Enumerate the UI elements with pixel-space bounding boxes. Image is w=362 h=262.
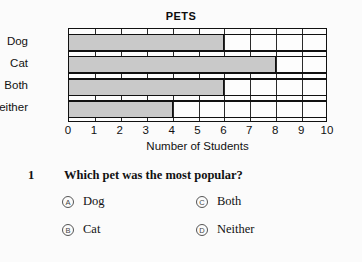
question-number: 1 — [28, 168, 34, 183]
option-label-a: Dog — [83, 194, 105, 209]
answer-option-c[interactable]: CBoth — [196, 194, 241, 209]
chart-title: PETS — [0, 10, 362, 22]
answer-option-b[interactable]: BCat — [62, 222, 100, 237]
grid-line-horizontal — [69, 78, 326, 80]
x-tick-4: 4 — [168, 124, 174, 136]
x-tick-9: 9 — [298, 124, 304, 136]
grid-line-horizontal — [69, 56, 326, 58]
option-bubble-b-icon[interactable]: B — [62, 224, 74, 236]
x-tick-2: 2 — [117, 124, 123, 136]
x-tick-3: 3 — [142, 124, 148, 136]
option-label-d: Neither — [217, 222, 254, 237]
option-label-c: Both — [217, 194, 241, 209]
option-bubble-d-icon[interactable]: D — [196, 224, 208, 236]
bar-neither — [69, 101, 173, 118]
option-bubble-a-icon[interactable]: A — [62, 196, 74, 208]
x-tick-8: 8 — [272, 124, 278, 136]
bar-chart-plot-area — [68, 28, 327, 122]
category-label-neither: Neither — [0, 101, 28, 113]
x-tick-1: 1 — [91, 124, 97, 136]
x-tick-0: 0 — [65, 124, 71, 136]
grid-line-horizontal — [69, 72, 326, 74]
grid-line-horizontal — [69, 95, 326, 97]
x-tick-7: 7 — [246, 124, 252, 136]
bar-row — [69, 35, 326, 52]
category-label-cat: Cat — [10, 57, 28, 69]
grid-line-horizontal — [69, 34, 326, 36]
bar-row — [69, 79, 326, 96]
bar-cat — [69, 57, 276, 74]
bar-both — [69, 79, 224, 96]
option-label-b: Cat — [83, 222, 100, 237]
x-tick-5: 5 — [194, 124, 200, 136]
x-tick-6: 6 — [220, 124, 226, 136]
bar-row — [69, 101, 326, 118]
category-label-dog: Dog — [7, 35, 28, 47]
question-text: Which pet was the most popular? — [64, 168, 243, 183]
option-bubble-c-icon[interactable]: C — [196, 196, 208, 208]
bar-dog — [69, 35, 224, 52]
answer-option-d[interactable]: DNeither — [196, 222, 254, 237]
x-tick-10: 10 — [321, 124, 334, 136]
grid-line-horizontal — [69, 100, 326, 102]
x-axis-title: Number of Students — [68, 140, 327, 152]
bar-row — [69, 57, 326, 74]
grid-line-horizontal — [69, 50, 326, 52]
grid-line-horizontal — [69, 117, 326, 119]
answer-option-a[interactable]: ADog — [62, 194, 105, 209]
category-label-both: Both — [4, 79, 28, 91]
worksheet-page: PETS DogCatBothNeither 012345678910 Numb… — [0, 0, 362, 262]
